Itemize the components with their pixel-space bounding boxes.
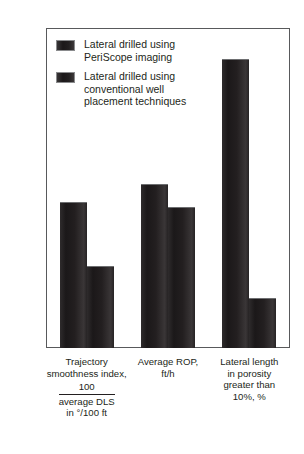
x-axis-category-title: Trajectory smoothness index, (46, 356, 127, 379)
x-axis-category-label: Trajectory smoothness index,100average D… (46, 356, 127, 419)
legend-item: Lateral drilled using PeriScope imaging (56, 38, 256, 63)
legend-swatch-icon (56, 40, 75, 51)
legend-item-label: Lateral drilled using PeriScope imaging (84, 38, 175, 63)
y-axis: 0102030405060708090100110 (0, 0, 46, 454)
bar (249, 298, 276, 348)
bar (60, 202, 87, 348)
legend-item-label: Lateral drilled using conventional well … (84, 70, 186, 108)
x-axis-category-title: Average ROP, ft/h (127, 356, 208, 379)
x-axis-category-title: Lateral length in porosity greater than … (209, 356, 290, 402)
fraction-numerator: 100 (59, 381, 115, 395)
x-axis-labels: Trajectory smoothness index,100average D… (46, 356, 290, 452)
x-axis-category-fraction: 100average DLS in °/100 ft (59, 381, 115, 419)
x-axis-category-label: Average ROP, ft/h (127, 356, 208, 379)
fraction-denominator: average DLS in °/100 ft (59, 395, 115, 419)
legend-swatch-icon (56, 72, 75, 83)
bar (87, 266, 114, 348)
chart-legend: Lateral drilled using PeriScope imagingL… (56, 38, 256, 115)
bar-chart: 0102030405060708090100110 Lateral drille… (0, 0, 304, 454)
bar (168, 207, 195, 348)
legend-item: Lateral drilled using conventional well … (56, 70, 256, 108)
bar (141, 184, 168, 348)
x-axis-category-label: Lateral length in porosity greater than … (209, 356, 290, 402)
